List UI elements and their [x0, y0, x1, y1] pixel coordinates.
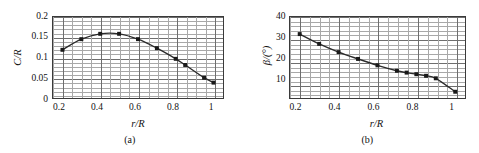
panel-a: C/R 0.2 0.15 0.1 0.05 0 0.2 0.4 0.6 0.8 … — [0, 0, 240, 153]
panel-a-ytick-label: 0.1 — [12, 53, 48, 63]
panel-a-xtick-label: 0.6 — [120, 103, 150, 113]
data-point-marker — [356, 57, 360, 61]
data-point-marker — [212, 81, 216, 85]
panel-b-plot-area — [289, 16, 466, 99]
panel-a-ytick-label: 0.05 — [12, 74, 48, 84]
data-point-marker — [433, 76, 437, 80]
panel-b-caption: (b) — [248, 134, 479, 145]
panel-b-x-axis-label: r/R — [357, 118, 397, 129]
panel-b-series — [290, 17, 465, 99]
panel-b-xtick-label: 0.6 — [359, 103, 389, 113]
data-point-marker — [297, 32, 301, 36]
data-point-marker — [404, 71, 408, 75]
panel-b-xtick-label: 0.2 — [281, 103, 311, 113]
data-point-marker — [117, 32, 121, 36]
panel-b-xtick-label: 1 — [437, 103, 467, 113]
data-point-marker — [98, 32, 102, 36]
panel-a-xtick-label: 0.2 — [44, 103, 74, 113]
data-point-marker — [79, 37, 83, 41]
data-point-marker — [336, 50, 340, 54]
panel-b-ytick-label: 40 — [256, 12, 286, 22]
panel-a-series — [53, 17, 223, 99]
panel-b-xtick-label: 0.4 — [320, 103, 350, 113]
data-point-marker — [183, 63, 187, 67]
panel-a-xtick-label: 1 — [196, 103, 226, 113]
data-point-marker — [375, 63, 379, 67]
data-point-marker — [60, 48, 64, 52]
data-point-marker — [414, 72, 418, 76]
panel-a-ytick-label: 0.2 — [12, 12, 48, 22]
panel-a-x-axis-label: r/R — [118, 118, 158, 129]
panel-a-ytick-label: 0.15 — [12, 32, 48, 42]
figure-two-panel: C/R 0.2 0.15 0.1 0.05 0 0.2 0.4 0.6 0.8 … — [0, 0, 479, 153]
panel-a-plot-area — [52, 16, 224, 99]
panel-b-ytick-label: 30 — [256, 33, 286, 43]
data-point-marker — [317, 42, 321, 46]
panel-a-ytick-label: 0 — [12, 95, 48, 105]
panel-b-xtick-label: 0.8 — [398, 103, 428, 113]
data-point-marker — [424, 74, 428, 78]
panel-b: β/(°) 40 30 20 10 0.2 0.4 0.6 0.8 1 r/R … — [240, 0, 479, 153]
data-point-marker — [202, 76, 206, 80]
data-point-marker — [453, 90, 457, 94]
data-point-marker — [155, 46, 159, 50]
series-line — [299, 34, 455, 92]
data-point-marker — [394, 69, 398, 73]
panel-a-xtick-label: 0.4 — [82, 103, 112, 113]
data-point-marker — [136, 37, 140, 41]
panel-a-xtick-label: 0.8 — [158, 103, 188, 113]
panel-b-ytick-label: 10 — [256, 75, 286, 85]
panel-b-ytick-label: 20 — [256, 54, 286, 64]
panel-a-caption: (a) — [10, 134, 250, 145]
data-point-marker — [174, 57, 178, 61]
